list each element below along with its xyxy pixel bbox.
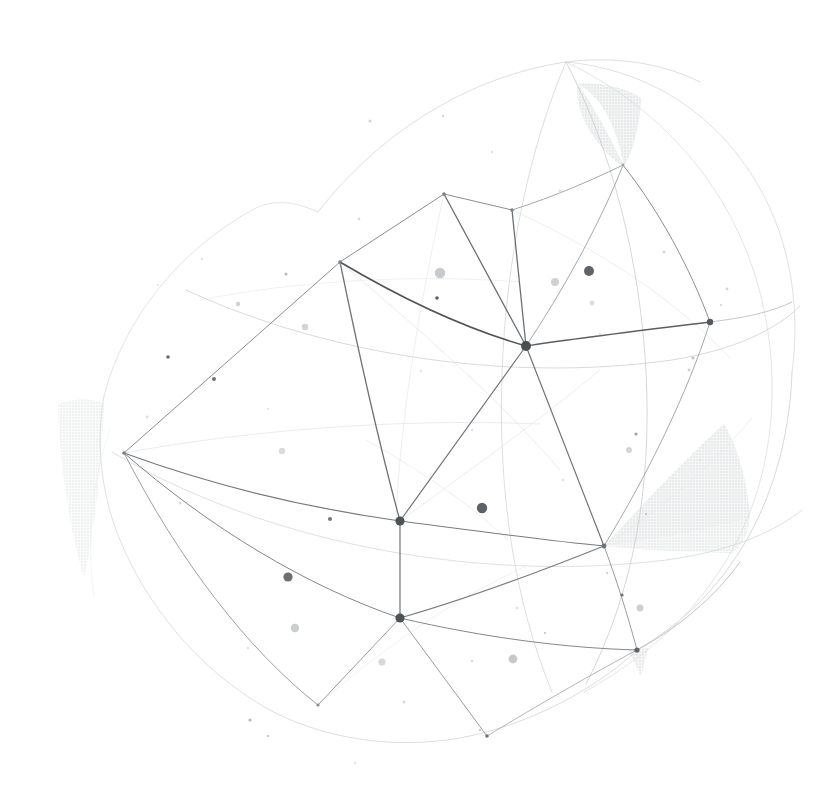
speckle-dot [291, 624, 299, 632]
speckle-dot [403, 701, 406, 704]
node-north [510, 208, 514, 212]
node-bottom-south [485, 734, 489, 738]
speckle-dot [606, 572, 608, 574]
speckle-dot [302, 324, 308, 330]
node-far-west [122, 451, 126, 455]
node-southeast [602, 544, 607, 549]
speckle-dot [179, 502, 182, 505]
speckle-dot [471, 429, 473, 431]
speckle-dot [420, 370, 422, 372]
speckle-dot [562, 479, 564, 481]
speckle-dot [358, 218, 361, 221]
speckle-dot [368, 119, 371, 122]
speckle-dot [634, 432, 637, 435]
speckle-dot [720, 304, 722, 306]
speckle-dot [516, 607, 518, 609]
artwork-canvas: Abstract Geometric Wireframe Sphere Abst… [0, 0, 828, 801]
node-hub [521, 341, 531, 351]
node-bottom-left [316, 703, 319, 706]
node-southwest [395, 516, 404, 525]
speckle-dot [248, 718, 251, 721]
speckle-dot [509, 655, 518, 664]
speckle-dot [584, 266, 594, 276]
speckle-dot [247, 647, 249, 649]
speckle-dot [267, 735, 269, 737]
speckle-dot [166, 355, 170, 359]
speckle-dot [471, 660, 473, 662]
speckle-dot [726, 288, 729, 291]
wireframe-sphere-diagram: Abstract Geometric Wireframe Sphere Abst… [0, 0, 828, 801]
node-bottom-right [634, 647, 639, 652]
speckle-dot [620, 593, 623, 596]
speckle-dot [201, 258, 203, 260]
speckle-dot [477, 503, 487, 513]
speckle-dot [328, 517, 332, 521]
node-northwest [442, 192, 446, 196]
speckle-dot [442, 115, 445, 118]
speckle-dot [283, 572, 292, 581]
speckle-dot [551, 278, 559, 286]
speckle-dot [378, 658, 385, 665]
speckle-dot [435, 268, 445, 278]
speckle-dot [626, 447, 632, 453]
speckle-dot [479, 729, 481, 731]
speckle-dot [691, 356, 694, 359]
speckle-dot [491, 151, 493, 153]
speckle-dot [544, 632, 546, 634]
speckle-dot [645, 513, 647, 515]
speckle-dot [267, 408, 269, 410]
node-east [707, 319, 713, 325]
speckle-dot [663, 251, 666, 254]
speckle-dot [559, 190, 562, 193]
node-south [395, 613, 404, 622]
speckle-dot [157, 284, 159, 286]
speckle-dot [688, 369, 691, 372]
speckle-dot [435, 296, 439, 300]
speckle-dot [354, 762, 356, 764]
speckle-dot [212, 377, 216, 381]
speckle-dot [236, 302, 240, 306]
speckle-dot [279, 448, 285, 454]
speckle-dot [699, 459, 701, 461]
node-west [338, 260, 342, 264]
node-crest [622, 164, 625, 167]
background-rect [0, 0, 828, 801]
speckle-dot [599, 333, 601, 335]
speckle-dot [284, 272, 287, 275]
speckle-dot [637, 605, 644, 612]
speckle-dot [590, 301, 595, 306]
speckle-dot [146, 416, 149, 419]
